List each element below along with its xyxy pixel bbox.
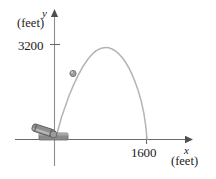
x-axis-tick-label-1600: 1600 — [131, 146, 156, 159]
y-axis — [50, 9, 60, 166]
projectile-highlight — [71, 71, 73, 73]
y-axis-symbol-label: y — [42, 8, 47, 19]
projectile-circle-icon — [70, 70, 76, 76]
trajectory-path — [56, 48, 148, 139]
x-axis-arrow-icon — [185, 136, 193, 143]
x-axis-unit-label: (feet) — [171, 155, 198, 168]
projectile-trajectory-figure: (feet) y 3200 1600 x (feet) — [0, 0, 216, 179]
cannon-launcher — [31, 123, 68, 140]
trajectory-curve — [56, 48, 148, 139]
projectile-marker — [70, 70, 76, 76]
y-axis-arrow-icon — [51, 9, 58, 17]
y-axis-tick-label-3200: 3200 — [18, 39, 43, 52]
cannon-pivot-icon — [50, 131, 57, 138]
y-axis-unit-label: (feet) — [17, 17, 44, 30]
